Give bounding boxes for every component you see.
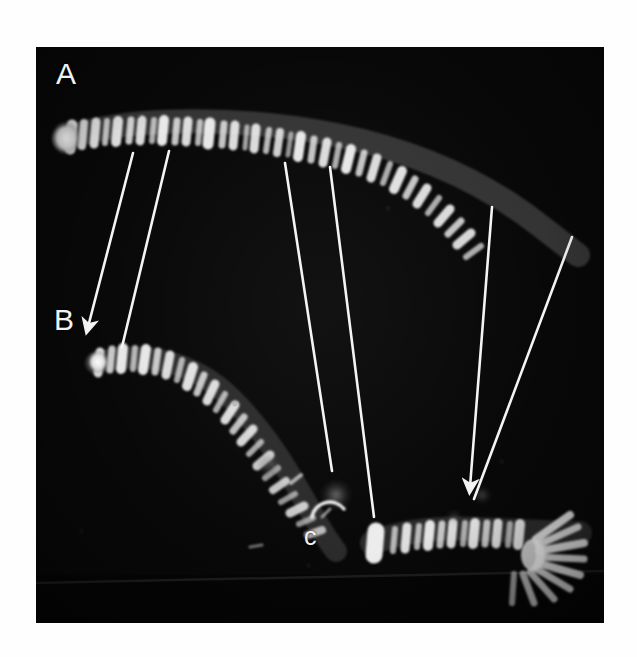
micrograph-panel: A B c [36, 47, 604, 623]
micrograph-canvas [36, 47, 604, 623]
figure-root: A B c [0, 0, 637, 657]
panel-label-a: A [56, 59, 76, 89]
panel-label-c: c [304, 524, 317, 549]
panel-label-b: B [54, 305, 74, 335]
